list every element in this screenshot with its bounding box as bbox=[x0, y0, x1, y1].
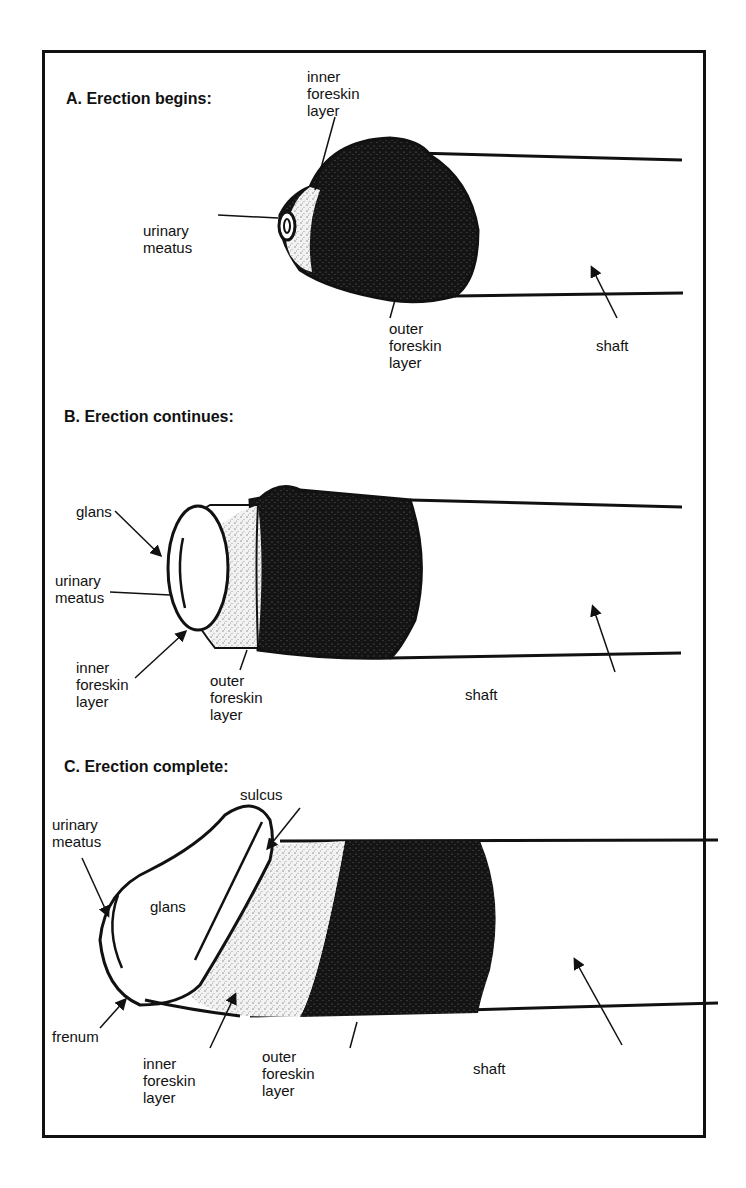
panel-a-drawing bbox=[218, 117, 683, 318]
label-glans-c: glans bbox=[150, 898, 186, 915]
label-shaft-c: shaft bbox=[473, 1060, 506, 1077]
label-urinary-meatus-c: urinary meatus bbox=[52, 816, 101, 850]
panel-c-drawing bbox=[82, 806, 718, 1048]
label-outer-foreskin-c: outer foreskin layer bbox=[262, 1048, 315, 1099]
label-outer-foreskin-b: outer foreskin layer bbox=[210, 672, 263, 723]
label-outer-foreskin-a: outer foreskin layer bbox=[389, 320, 442, 371]
label-urinary-meatus-b: urinary meatus bbox=[55, 572, 104, 606]
label-glans-b: glans bbox=[76, 503, 112, 520]
label-inner-foreskin-c: inner foreskin layer bbox=[143, 1055, 196, 1106]
panel-a-title: A. Erection begins: bbox=[66, 90, 212, 108]
panel-b-title: B. Erection continues: bbox=[64, 408, 234, 426]
label-frenum-c: frenum bbox=[52, 1028, 99, 1045]
label-shaft-a: shaft bbox=[596, 337, 629, 354]
label-urinary-meatus-a: urinary meatus bbox=[143, 222, 192, 256]
label-sulcus-c: sulcus bbox=[240, 786, 283, 803]
panel-c-title: C. Erection complete: bbox=[64, 758, 228, 776]
panel-b-drawing bbox=[110, 486, 682, 678]
label-inner-foreskin-b: inner foreskin layer bbox=[76, 659, 129, 710]
diagram-drawings bbox=[0, 0, 746, 1188]
label-inner-foreskin-a: inner foreskin layer bbox=[307, 68, 360, 119]
label-shaft-b: shaft bbox=[465, 686, 498, 703]
